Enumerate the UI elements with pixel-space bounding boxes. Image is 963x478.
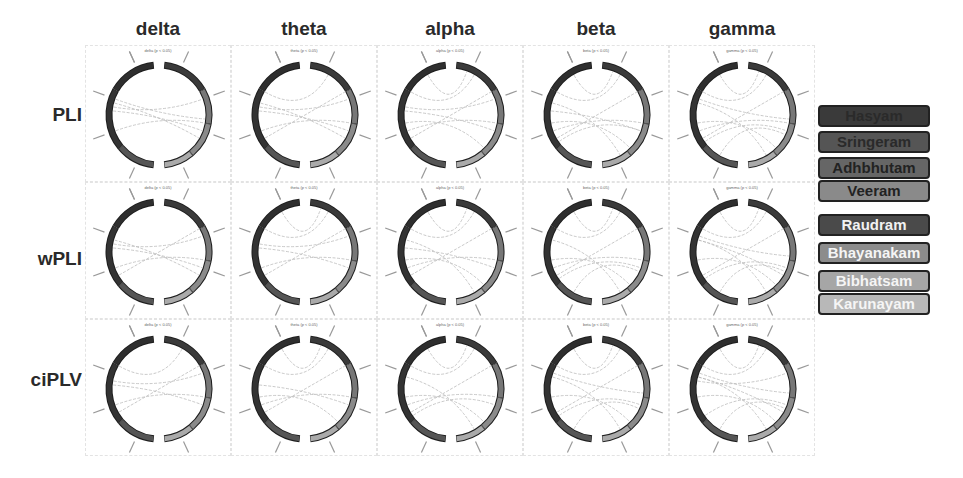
chord-diagram-grid: delta (p < 0.05)theta (p < 0.05)alpha (p… xyxy=(85,45,815,456)
chord-cell-wpli-delta: delta (p < 0.05) xyxy=(85,182,231,319)
legend-bibhatsam: Bibhatsam xyxy=(818,270,930,292)
col-title-delta: delta xyxy=(85,18,231,40)
chord-diagram xyxy=(86,183,232,320)
chord-cell-ciplv-theta: theta (p < 0.05) xyxy=(231,319,377,456)
chord-diagram xyxy=(378,46,524,183)
legend-adhbhutam: Adhbhutam xyxy=(818,157,930,179)
legend-bhayanakam: Bhayanakam xyxy=(818,242,930,264)
chord-cell-ciplv-delta: delta (p < 0.05) xyxy=(85,319,231,456)
legend-karunayam: Karunayam xyxy=(818,293,930,315)
chord-cell-pli-delta: delta (p < 0.05) xyxy=(85,45,231,182)
chord-diagram xyxy=(524,46,670,183)
chord-diagram xyxy=(378,183,524,320)
legend-veeram: Veeram xyxy=(818,180,930,202)
chord-cell-wpli-gamma: gamma (p < 0.05) xyxy=(669,182,815,319)
chord-cell-wpli-beta: beta (p < 0.05) xyxy=(523,182,669,319)
row-label-wpli: wPLI xyxy=(0,248,82,270)
chord-cell-wpli-alpha: alpha (p < 0.05) xyxy=(377,182,523,319)
col-title-alpha: alpha xyxy=(377,18,523,40)
legend-raudram: Raudram xyxy=(818,214,930,236)
chord-diagram xyxy=(86,320,232,457)
chord-diagram xyxy=(232,46,378,183)
chord-cell-ciplv-beta: beta (p < 0.05) xyxy=(523,319,669,456)
legend-sringeram: Sringeram xyxy=(818,131,930,153)
chord-diagram xyxy=(670,320,816,457)
chord-diagram xyxy=(378,320,524,457)
chord-diagram xyxy=(86,46,232,183)
row-label-pli: PLI xyxy=(0,104,82,126)
chord-cell-pli-alpha: alpha (p < 0.05) xyxy=(377,45,523,182)
chord-cell-ciplv-alpha: alpha (p < 0.05) xyxy=(377,319,523,456)
chord-diagram xyxy=(232,183,378,320)
chord-diagram xyxy=(524,320,670,457)
col-title-gamma: gamma xyxy=(669,18,815,40)
chord-cell-pli-gamma: gamma (p < 0.05) xyxy=(669,45,815,182)
chord-diagram xyxy=(232,320,378,457)
chord-cell-pli-theta: theta (p < 0.05) xyxy=(231,45,377,182)
chord-diagram xyxy=(524,183,670,320)
col-title-theta: theta xyxy=(231,18,377,40)
chord-diagram xyxy=(670,183,816,320)
col-title-beta: beta xyxy=(523,18,669,40)
row-label-ciplv: ciPLV xyxy=(0,369,82,391)
chord-cell-ciplv-gamma: gamma (p < 0.05) xyxy=(669,319,815,456)
legend-hasyam: Hasyam xyxy=(818,105,930,127)
chord-diagram xyxy=(670,46,816,183)
chord-cell-pli-beta: beta (p < 0.05) xyxy=(523,45,669,182)
chord-cell-wpli-theta: theta (p < 0.05) xyxy=(231,182,377,319)
